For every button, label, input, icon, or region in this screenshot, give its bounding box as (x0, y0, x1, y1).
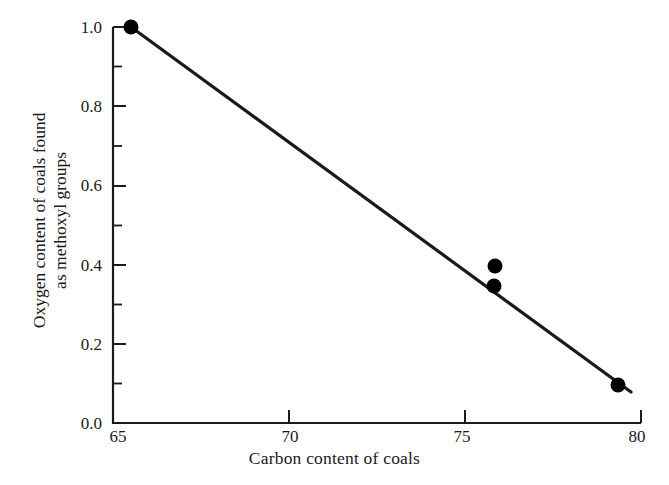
axis-spines (113, 27, 641, 423)
x-major-ticks (113, 410, 641, 423)
data-point-marker (488, 259, 503, 274)
trend-line (131, 27, 631, 392)
data-point-marker (487, 279, 502, 294)
data-point-marker (124, 20, 139, 35)
plot-area (0, 0, 669, 485)
chart-figure: Oxygen content of coals found as methoxy… (0, 0, 669, 485)
data-point-marker (611, 378, 626, 393)
y-minor-ticks (113, 67, 122, 384)
